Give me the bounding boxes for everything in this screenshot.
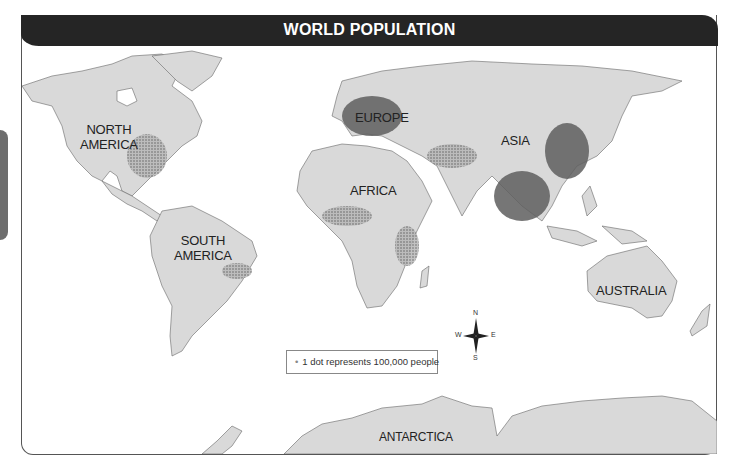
compass-s: S <box>473 354 478 361</box>
label-australia: AUSTRALIA <box>596 283 666 298</box>
map-legend: •1 dot represents 100,000 people <box>286 350 438 374</box>
compass-w: W <box>455 331 462 338</box>
dot-marker-icon: • <box>295 356 298 367</box>
compass-n: N <box>473 309 478 316</box>
south-america-shape <box>150 206 257 356</box>
label-africa: AFRICA <box>350 183 396 198</box>
label-south-america: SOUTH AMERICA <box>174 233 232 263</box>
madagascar-shape <box>420 266 429 288</box>
compass-rose: N S W E <box>455 310 497 362</box>
world-map <box>22 46 717 454</box>
title-bar: WORLD POPULATION <box>21 15 718 46</box>
antarctica-shape <box>202 426 242 454</box>
australia-shape <box>587 246 677 318</box>
side-tab <box>0 130 8 240</box>
africa-shape <box>297 144 432 308</box>
label-europe: EUROPE <box>355 110 409 125</box>
legend-text: 1 dot represents 100,000 people <box>302 356 439 367</box>
label-north-america: NORTH AMERICA <box>80 122 138 152</box>
compass-e: E <box>491 331 496 338</box>
label-asia: ASIA <box>501 133 530 148</box>
new-zealand-shape <box>690 304 710 336</box>
label-antarctica: ANTARCTICA <box>379 430 453 445</box>
page-title: WORLD POPULATION <box>21 21 718 39</box>
